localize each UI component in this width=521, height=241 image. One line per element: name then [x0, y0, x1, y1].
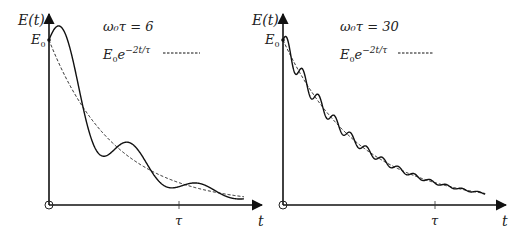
x-axis-label: t: [258, 213, 264, 229]
y-tick-e0: E0: [264, 32, 280, 49]
legend-expression: E0e−2t/τ: [102, 45, 151, 64]
y-axis-label: E(t): [17, 12, 45, 28]
figure: E(t) t E0 τ ω₀τ = 6 E0e−2t/τ E(t) t E0 τ…: [0, 0, 521, 241]
x-tick-tau: τ: [431, 213, 439, 228]
panel-left: E(t) t E0 τ ω₀τ = 6 E0e−2t/τ: [17, 12, 264, 229]
energy-curve: [283, 36, 485, 194]
legend-expression: E0e−2t/τ: [339, 45, 388, 64]
y-tick-e0: E0: [30, 32, 46, 49]
y-axis-label: E(t): [251, 12, 279, 28]
x-tick-tau: τ: [175, 213, 183, 228]
exponential-curve: [49, 40, 244, 197]
param-annotation: ω₀τ = 30: [340, 19, 399, 34]
param-annotation: ω₀τ = 6: [103, 19, 153, 34]
panel-right: E(t) t E0 τ ω₀τ = 30 E0e−2t/τ: [251, 12, 508, 229]
exponential-curve: [283, 40, 485, 193]
x-axis-label: t: [502, 213, 508, 229]
